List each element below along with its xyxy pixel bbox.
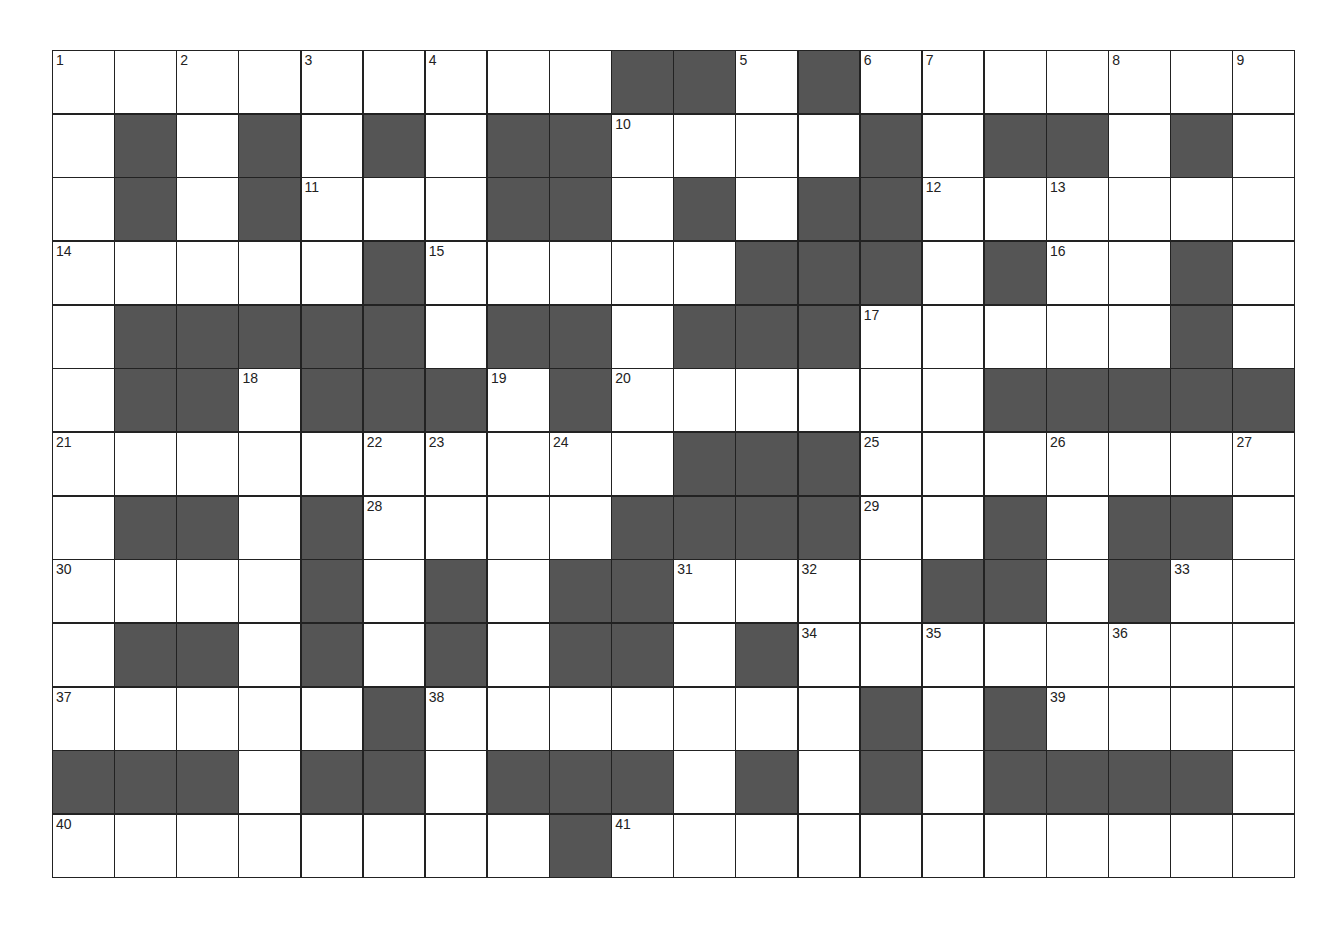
answer-cell[interactable] bbox=[488, 688, 549, 750]
answer-cell[interactable]: 14 bbox=[53, 242, 114, 304]
answer-cell[interactable] bbox=[985, 624, 1046, 686]
answer-cell[interactable] bbox=[985, 433, 1046, 495]
answer-cell[interactable] bbox=[736, 115, 797, 177]
answer-cell[interactable]: 28 bbox=[364, 497, 425, 559]
answer-cell[interactable] bbox=[53, 306, 114, 368]
answer-cell[interactable] bbox=[1047, 306, 1108, 368]
answer-cell[interactable] bbox=[923, 688, 984, 750]
answer-cell[interactable] bbox=[239, 51, 300, 113]
answer-cell[interactable] bbox=[923, 369, 984, 431]
answer-cell[interactable] bbox=[674, 369, 735, 431]
answer-cell[interactable]: 34 bbox=[799, 624, 860, 686]
answer-cell[interactable] bbox=[985, 815, 1046, 877]
answer-cell[interactable] bbox=[550, 688, 611, 750]
answer-cell[interactable] bbox=[1109, 433, 1170, 495]
answer-cell[interactable] bbox=[1233, 815, 1294, 877]
answer-cell[interactable] bbox=[364, 815, 425, 877]
answer-cell[interactable] bbox=[736, 688, 797, 750]
answer-cell[interactable] bbox=[674, 242, 735, 304]
answer-cell[interactable] bbox=[612, 242, 673, 304]
answer-cell[interactable] bbox=[1233, 306, 1294, 368]
answer-cell[interactable] bbox=[736, 369, 797, 431]
answer-cell[interactable] bbox=[364, 51, 425, 113]
answer-cell[interactable] bbox=[426, 815, 487, 877]
answer-cell[interactable] bbox=[1233, 560, 1294, 622]
answer-cell[interactable] bbox=[488, 242, 549, 304]
answer-cell[interactable] bbox=[115, 433, 176, 495]
answer-cell[interactable] bbox=[985, 51, 1046, 113]
answer-cell[interactable]: 8 bbox=[1109, 51, 1170, 113]
answer-cell[interactable] bbox=[1233, 624, 1294, 686]
answer-cell[interactable] bbox=[177, 178, 238, 240]
answer-cell[interactable]: 4 bbox=[426, 51, 487, 113]
answer-cell[interactable] bbox=[115, 688, 176, 750]
answer-cell[interactable]: 25 bbox=[861, 433, 922, 495]
answer-cell[interactable] bbox=[115, 51, 176, 113]
answer-cell[interactable] bbox=[53, 115, 114, 177]
answer-cell[interactable]: 18 bbox=[239, 369, 300, 431]
answer-cell[interactable] bbox=[674, 751, 735, 813]
answer-cell[interactable] bbox=[115, 242, 176, 304]
answer-cell[interactable] bbox=[239, 688, 300, 750]
answer-cell[interactable] bbox=[1171, 51, 1232, 113]
answer-cell[interactable] bbox=[488, 497, 549, 559]
answer-cell[interactable] bbox=[674, 815, 735, 877]
answer-cell[interactable]: 41 bbox=[612, 815, 673, 877]
answer-cell[interactable]: 7 bbox=[923, 51, 984, 113]
answer-cell[interactable] bbox=[488, 815, 549, 877]
answer-cell[interactable] bbox=[1171, 178, 1232, 240]
answer-cell[interactable] bbox=[488, 433, 549, 495]
answer-cell[interactable] bbox=[364, 178, 425, 240]
answer-cell[interactable] bbox=[923, 433, 984, 495]
answer-cell[interactable] bbox=[239, 815, 300, 877]
answer-cell[interactable] bbox=[550, 497, 611, 559]
answer-cell[interactable] bbox=[550, 242, 611, 304]
answer-cell[interactable] bbox=[861, 369, 922, 431]
answer-cell[interactable] bbox=[674, 115, 735, 177]
answer-cell[interactable] bbox=[612, 433, 673, 495]
answer-cell[interactable] bbox=[612, 178, 673, 240]
answer-cell[interactable]: 29 bbox=[861, 497, 922, 559]
answer-cell[interactable] bbox=[239, 242, 300, 304]
answer-cell[interactable] bbox=[177, 433, 238, 495]
answer-cell[interactable] bbox=[1171, 624, 1232, 686]
answer-cell[interactable]: 30 bbox=[53, 560, 114, 622]
answer-cell[interactable] bbox=[239, 433, 300, 495]
answer-cell[interactable] bbox=[1109, 115, 1170, 177]
answer-cell[interactable]: 11 bbox=[302, 178, 363, 240]
answer-cell[interactable] bbox=[799, 688, 860, 750]
answer-cell[interactable] bbox=[302, 815, 363, 877]
answer-cell[interactable] bbox=[426, 751, 487, 813]
answer-cell[interactable] bbox=[985, 178, 1046, 240]
answer-cell[interactable]: 24 bbox=[550, 433, 611, 495]
answer-cell[interactable] bbox=[550, 51, 611, 113]
answer-cell[interactable] bbox=[426, 178, 487, 240]
answer-cell[interactable] bbox=[612, 306, 673, 368]
answer-cell[interactable] bbox=[115, 560, 176, 622]
answer-cell[interactable]: 40 bbox=[53, 815, 114, 877]
answer-cell[interactable] bbox=[861, 815, 922, 877]
answer-cell[interactable] bbox=[1047, 624, 1108, 686]
answer-cell[interactable] bbox=[177, 815, 238, 877]
answer-cell[interactable] bbox=[923, 497, 984, 559]
answer-cell[interactable]: 12 bbox=[923, 178, 984, 240]
answer-cell[interactable] bbox=[177, 560, 238, 622]
answer-cell[interactable] bbox=[239, 624, 300, 686]
answer-cell[interactable]: 1 bbox=[53, 51, 114, 113]
answer-cell[interactable] bbox=[799, 115, 860, 177]
answer-cell[interactable] bbox=[302, 242, 363, 304]
answer-cell[interactable] bbox=[364, 560, 425, 622]
answer-cell[interactable] bbox=[302, 433, 363, 495]
answer-cell[interactable]: 13 bbox=[1047, 178, 1108, 240]
answer-cell[interactable]: 5 bbox=[736, 51, 797, 113]
answer-cell[interactable]: 32 bbox=[799, 560, 860, 622]
answer-cell[interactable]: 33 bbox=[1171, 560, 1232, 622]
answer-cell[interactable] bbox=[488, 51, 549, 113]
answer-cell[interactable]: 15 bbox=[426, 242, 487, 304]
answer-cell[interactable] bbox=[302, 688, 363, 750]
answer-cell[interactable] bbox=[1233, 751, 1294, 813]
answer-cell[interactable]: 38 bbox=[426, 688, 487, 750]
answer-cell[interactable]: 35 bbox=[923, 624, 984, 686]
answer-cell[interactable]: 3 bbox=[302, 51, 363, 113]
answer-cell[interactable] bbox=[1047, 815, 1108, 877]
